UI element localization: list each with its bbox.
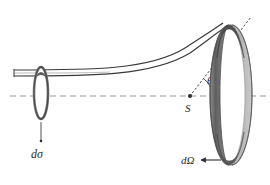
scattering-diagram-canvas: dσ θ S (0, 0, 270, 185)
d-sigma-leader-dot (40, 140, 43, 143)
solid-angle-ring (210, 25, 252, 165)
d-sigma-label: dσ (31, 147, 44, 161)
cross-section-aperture-ring (34, 67, 48, 119)
scattering-diagram-figure: dσ θ S (0, 0, 270, 185)
scatterer-label: S (185, 102, 191, 114)
d-sigma-leader (40, 122, 43, 142)
d-omega-label: dΩ (181, 154, 195, 166)
incident-beam-tube (14, 23, 226, 77)
scatterer-point (188, 94, 192, 98)
scattering-center (188, 94, 192, 98)
